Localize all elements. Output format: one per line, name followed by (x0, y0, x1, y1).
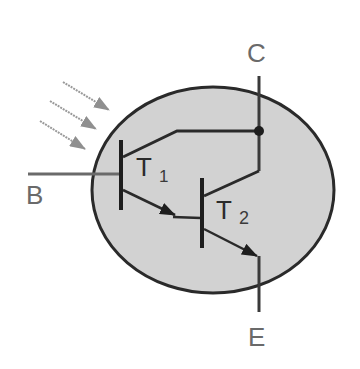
package-outline (92, 87, 334, 293)
collector-label: C (247, 38, 266, 68)
emitter-label: E (248, 322, 265, 352)
light-ray-3 (40, 121, 85, 149)
t2-label: T (216, 195, 232, 225)
t2-name: T (216, 195, 232, 225)
light-ray-2 (50, 101, 96, 129)
t1-subscript: 1 (159, 167, 168, 186)
t1-name: T (136, 152, 152, 182)
light-ray-1 (63, 82, 109, 110)
t1-to-t2-wire (173, 217, 201, 218)
photodarlington-diagram: C B E T 1 T 2 (0, 0, 360, 369)
t1-label: T (136, 152, 152, 182)
t2-subscript: 2 (239, 208, 249, 228)
base-label: B (26, 180, 43, 210)
light-rays-icon (40, 82, 109, 149)
collector-junction-dot (254, 126, 264, 136)
